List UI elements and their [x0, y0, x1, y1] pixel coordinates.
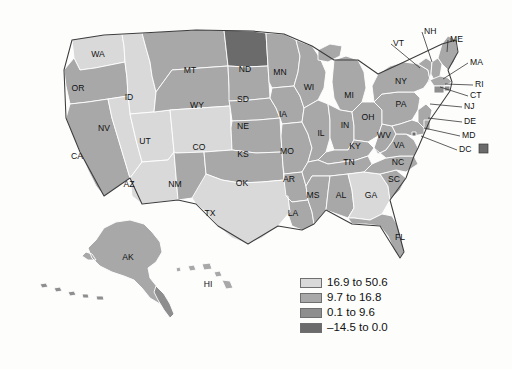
state-label-MS: MS — [307, 190, 320, 200]
state-label-DE: DE — [464, 116, 476, 126]
legend-swatch — [300, 323, 322, 333]
legend-label: 16.9 to 50.6 — [327, 277, 388, 289]
state-label-UT: UT — [139, 136, 151, 146]
state-label-ID: ID — [125, 92, 134, 102]
state-label-NC: NC — [392, 157, 404, 167]
state-label-AR: AR — [283, 174, 295, 184]
state-label-CA: CA — [71, 151, 83, 161]
state-label-FL: FL — [395, 232, 405, 242]
state-label-OH: OH — [362, 112, 375, 122]
state-label-AZ: AZ — [124, 179, 135, 189]
state-label-NE: NE — [237, 121, 249, 131]
state-CT[interactable] — [434, 86, 444, 93]
state-label-NH: NH — [424, 26, 436, 36]
aleutian-islands — [40, 283, 104, 300]
legend-row: –14.5 to 0.0 — [300, 321, 388, 334]
legend-swatch — [300, 293, 322, 303]
leader-line-DE — [428, 118, 462, 122]
legend-row: 0.1 to 9.6 — [300, 306, 388, 319]
legend-swatch — [300, 278, 322, 288]
state-label-NM: NM — [168, 179, 181, 189]
state-label-GA: GA — [365, 190, 378, 200]
state-label-WY: WY — [190, 100, 204, 110]
state-label-MI: MI — [344, 90, 354, 100]
state-label-ND: ND — [239, 64, 251, 74]
state-label-SD: SD — [237, 94, 249, 104]
leader-line-NH — [422, 32, 432, 62]
state-label-PA: PA — [396, 99, 407, 109]
state-label-VA: VA — [394, 140, 405, 150]
legend-row: 9.7 to 16.8 — [300, 291, 388, 304]
state-label-NV: NV — [98, 123, 110, 133]
state-label-CO: CO — [193, 142, 206, 152]
state-label-OR: OR — [72, 83, 85, 93]
state-label-NJ: NJ — [464, 101, 475, 111]
state-MN[interactable] — [266, 33, 300, 88]
legend-label: –14.5 to 0.0 — [327, 322, 388, 334]
leader-line-NJ — [430, 104, 462, 107]
leader-line-RI — [445, 84, 473, 85]
state-label-IA: IA — [279, 109, 287, 119]
state-label-OK: OK — [236, 178, 249, 188]
state-label-HI: HI — [204, 279, 213, 289]
state-label-KS: KS — [237, 149, 249, 159]
state-label-NY: NY — [395, 76, 407, 86]
leader-line-MD — [424, 128, 460, 136]
us-choropleth-map-figure: WAORIDMTNDSDMNWIMIWYNVUTCONEIAILINOHPANY… — [0, 0, 512, 369]
state-label-TN: TN — [343, 157, 354, 167]
state-label-ME: ME — [450, 34, 463, 44]
legend-label: 0.1 to 9.6 — [327, 307, 375, 319]
us-map-svg: WAORIDMTNDSDMNWIMIWYNVUTCONEIAILINOHPANY… — [0, 0, 512, 369]
state-label-AK: AK — [122, 252, 134, 262]
state-label-DC: DC — [459, 144, 471, 154]
state-label-WV: WV — [377, 130, 391, 140]
state-label-MO: MO — [280, 146, 294, 156]
state-label-AL: AL — [336, 190, 347, 200]
legend-swatch — [300, 308, 322, 318]
state-label-KY: KY — [349, 141, 361, 151]
state-label-RI: RI — [475, 79, 484, 89]
legend-row: 16.9 to 50.6 — [300, 276, 388, 289]
state-label-SC: SC — [388, 174, 400, 184]
legend-label: 9.7 to 16.8 — [327, 292, 381, 304]
state-label-MN: MN — [273, 67, 286, 77]
state-label-TX: TX — [205, 208, 216, 218]
state-ND[interactable] — [224, 30, 268, 67]
state-label-IN: IN — [341, 120, 350, 130]
state-label-WI: WI — [304, 82, 315, 92]
state-label-WA: WA — [91, 49, 105, 59]
state-label-CT: CT — [470, 90, 482, 100]
state-label-MA: MA — [470, 57, 483, 67]
state-label-MT: MT — [184, 65, 197, 75]
state-label-LA: LA — [288, 208, 299, 218]
state-label-IL: IL — [317, 128, 324, 138]
map-legend: 16.9 to 50.69.7 to 16.80.1 to 9.6–14.5 t… — [300, 276, 388, 334]
dc-color-swatch — [479, 144, 488, 153]
state-label-MD: MD — [462, 130, 475, 140]
state-DC[interactable] — [412, 132, 416, 136]
state-label-VT: VT — [393, 38, 405, 48]
leader-line-DC — [421, 136, 457, 150]
